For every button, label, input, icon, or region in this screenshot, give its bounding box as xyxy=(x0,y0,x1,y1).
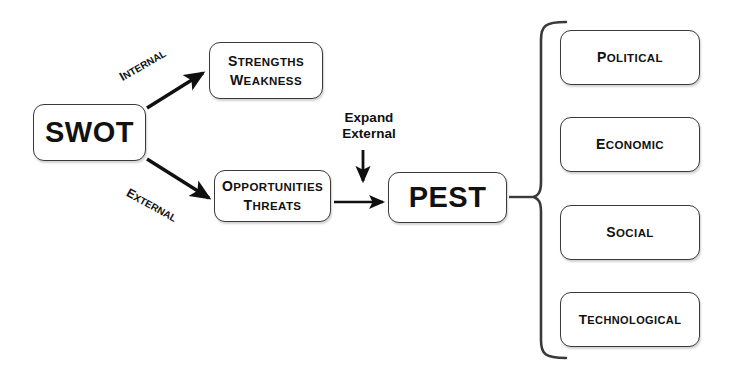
edge-swot-to-internal xyxy=(147,73,203,108)
political-initial: P xyxy=(597,49,607,65)
node-internal-factors[interactable]: STRENGTHS WEAKNESS xyxy=(209,42,323,99)
economic-rest: CONOMIC xyxy=(606,139,664,151)
external-line2-initial: T xyxy=(244,197,253,213)
node-pest-economic[interactable]: ECONOMIC xyxy=(560,117,700,172)
node-pest[interactable]: PEST xyxy=(388,172,507,223)
external-line2-rest: HREATS xyxy=(253,200,302,212)
social-initial: S xyxy=(606,224,616,240)
node-pest-political-label: POLITICAL xyxy=(597,48,663,67)
internal-line2-rest: EAKNESS xyxy=(244,75,302,87)
expand-external-line2: External xyxy=(333,126,405,142)
edge-label-expand-external: Expand External xyxy=(333,110,405,141)
internal-line1-rest: TRENGTHS xyxy=(238,56,304,68)
node-pest-social-label: SOCIAL xyxy=(606,223,654,242)
internal-line1-initial: S xyxy=(228,53,238,69)
expand-external-line1: Expand xyxy=(333,110,405,126)
internal-line2-initial: W xyxy=(230,72,244,88)
node-internal-factors-line1: STRENGTHS xyxy=(228,52,304,71)
diagram-canvas: SWOT STRENGTHS WEAKNESS OPPORTUNITIES TH… xyxy=(0,0,730,371)
node-pest-technological-label: TECHNOLOGICAL xyxy=(579,310,682,329)
node-internal-factors-line2: WEAKNESS xyxy=(230,71,302,90)
node-swot-label: SWOT xyxy=(45,115,134,149)
external-line1-rest: PPORTUNITIES xyxy=(233,181,323,193)
economic-initial: E xyxy=(596,136,606,152)
node-pest-technological[interactable]: TECHNOLOGICAL xyxy=(560,292,700,347)
edge-swot-to-external xyxy=(147,159,209,198)
social-rest: OCIAL xyxy=(616,227,654,239)
technological-initial: T xyxy=(579,312,588,327)
political-rest: OLITICAL xyxy=(607,52,663,64)
node-pest-social[interactable]: SOCIAL xyxy=(560,205,700,260)
node-swot[interactable]: SWOT xyxy=(33,104,146,161)
node-pest-label: PEST xyxy=(409,180,487,214)
technological-rest: ECHNOLOGICAL xyxy=(587,314,681,326)
node-external-factors-line2: THREATS xyxy=(244,196,302,215)
node-pest-economic-label: ECONOMIC xyxy=(596,135,664,154)
external-line1-initial: O xyxy=(222,178,233,194)
node-external-factors[interactable]: OPPORTUNITIES THREATS xyxy=(214,170,331,222)
node-external-factors-line1: OPPORTUNITIES xyxy=(222,177,323,196)
node-pest-political[interactable]: POLITICAL xyxy=(560,30,700,85)
